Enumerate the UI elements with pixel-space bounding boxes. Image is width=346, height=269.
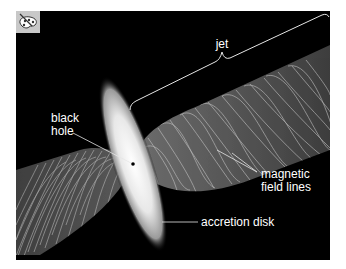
black-hole-label-line1: black [51, 111, 80, 125]
black-hole [131, 162, 135, 166]
magnetic-field-label-line1: magnetic [261, 167, 310, 181]
magnetic-field-label-line2: field lines [261, 180, 311, 194]
palette-icon [16, 11, 40, 33]
accretion-disk-label: accretion disk [201, 215, 275, 229]
black-hole-jet-diagram: jet black hole magnetic field lines accr… [0, 0, 346, 269]
black-hole-label-line2: hole [51, 124, 74, 138]
jet-label: jet [215, 37, 229, 51]
